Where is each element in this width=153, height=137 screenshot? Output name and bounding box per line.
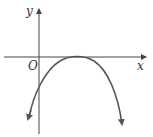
y-axis-label: y <box>26 5 33 17</box>
origin-label: O <box>28 60 38 72</box>
parabola-curve <box>28 57 122 125</box>
x-axis-label: x <box>137 60 144 72</box>
parabola-graph: y x O <box>0 0 153 137</box>
graph-canvas <box>0 0 153 137</box>
